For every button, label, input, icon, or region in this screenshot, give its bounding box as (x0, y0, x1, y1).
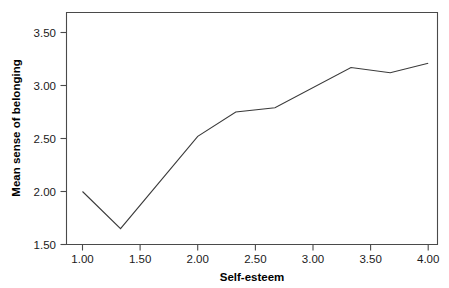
y-axis-title: Mean sense of belonging (10, 59, 22, 196)
x-tick-label-1.50: 1.50 (129, 253, 151, 265)
x-tick-label-1.00: 1.00 (71, 253, 93, 265)
x-axis-title: Self-esteem (220, 271, 285, 283)
x-tick-label-3.50: 3.50 (359, 253, 381, 265)
y-tick-label-3.00: 3.00 (34, 80, 56, 92)
y-tick-label-3.50: 3.50 (34, 27, 56, 39)
x-tick-label-3.00: 3.00 (302, 253, 324, 265)
x-tick-label-2.00: 2.00 (187, 253, 209, 265)
chart-svg: 3.50 3.00 2.50 2.00 1.50 1.00 1.50 2.00 … (0, 0, 449, 288)
line-chart: 3.50 3.00 2.50 2.00 1.50 1.00 1.50 2.00 … (0, 0, 449, 288)
y-tick-label-1.50: 1.50 (34, 239, 56, 251)
x-tick-label-2.50: 2.50 (244, 253, 266, 265)
y-tick-label-2.50: 2.50 (34, 133, 56, 145)
y-tick-label-2.00: 2.00 (34, 186, 56, 198)
x-tick-label-4.00: 4.00 (417, 253, 439, 265)
